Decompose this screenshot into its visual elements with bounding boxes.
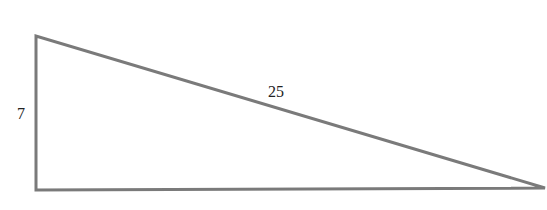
triangle-diagram: 7 25	[0, 0, 547, 210]
vertical-side-label: 7	[17, 106, 25, 122]
hypotenuse-label: 25	[268, 84, 284, 100]
triangle-shape	[0, 0, 547, 210]
